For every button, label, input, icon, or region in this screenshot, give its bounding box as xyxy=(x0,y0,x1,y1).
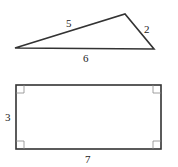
right-angle-mark-bottom-left xyxy=(16,141,24,149)
rectangle: 3 7 xyxy=(5,85,161,165)
right-angle-mark-top-right xyxy=(153,85,161,93)
rectangle-outline xyxy=(16,85,161,149)
triangle-side-label-6: 6 xyxy=(83,52,89,64)
triangle-side-label-2: 2 xyxy=(144,23,150,35)
right-angle-mark-bottom-right xyxy=(153,141,161,149)
rectangle-side-label-3: 3 xyxy=(5,111,11,123)
geometry-figure: 5 2 6 3 7 xyxy=(0,0,178,167)
right-angle-mark-top-left xyxy=(16,85,24,93)
triangle-side-label-5: 5 xyxy=(66,17,72,29)
rectangle-side-label-7: 7 xyxy=(85,153,91,165)
triangle-outline xyxy=(15,14,154,49)
triangle: 5 2 6 xyxy=(15,14,154,64)
